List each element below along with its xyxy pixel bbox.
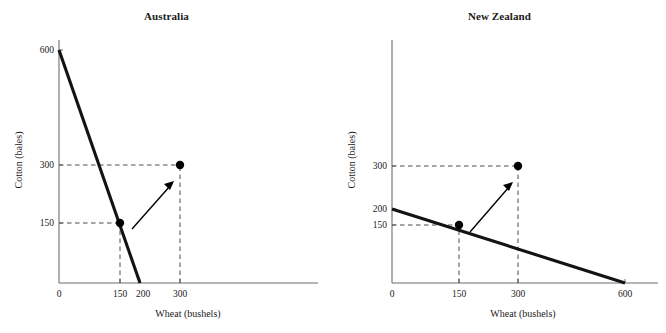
gains-from-trade-arrowhead [503, 182, 513, 191]
gains-from-trade-arrow [470, 187, 509, 232]
gains-from-trade-arrow [132, 186, 170, 229]
production-point [116, 219, 124, 227]
x-tick-label-0: 0 [57, 289, 62, 299]
x-tick-label-0: 0 [390, 289, 395, 299]
ppf-line-australia [59, 50, 140, 283]
y-tick-label-150: 150 [40, 218, 55, 228]
x-tick-label-300: 300 [173, 289, 188, 299]
x-tick-label-600: 600 [618, 289, 633, 299]
x-tick-label-300: 300 [511, 289, 526, 299]
x-axis-title: Wheat (bushels) [155, 308, 220, 320]
y-tick-label-200: 200 [373, 204, 388, 214]
new-zealand-plot: 0 150 300 600 150 200 300 Wheat (bushels… [333, 0, 666, 333]
y-tick-label-300: 300 [40, 160, 55, 170]
x-axis-title: Wheat (bushels) [490, 308, 555, 320]
consumption-point [176, 161, 184, 169]
x-tick-label-150: 150 [452, 289, 467, 299]
y-axis-title: Cotton (bales) [346, 132, 358, 189]
y-tick-label-150: 150 [373, 220, 388, 230]
y-tick-label-300: 300 [373, 161, 388, 171]
x-tick-label-200: 200 [136, 289, 151, 299]
two-panel-ppf-figure: Australia [0, 0, 666, 333]
gains-from-trade-arrowhead [164, 181, 174, 190]
panel-new-zealand: New Zealand [333, 0, 666, 333]
panel-australia: Australia [0, 0, 333, 333]
australia-plot: 0 150 200 300 150 300 600 Wheat (bushels… [0, 0, 333, 333]
y-tick-label-600: 600 [40, 45, 55, 55]
x-tick-label-150: 150 [113, 289, 128, 299]
production-point [455, 221, 463, 229]
y-axis-title: Cotton (bales) [13, 132, 25, 189]
consumption-point [514, 162, 522, 170]
ppf-line-new-zealand [392, 209, 625, 283]
